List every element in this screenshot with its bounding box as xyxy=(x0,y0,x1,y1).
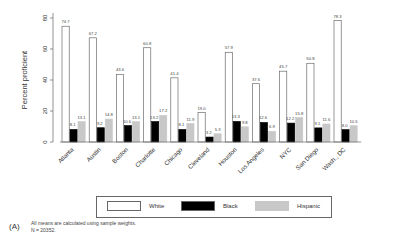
bar-group xyxy=(144,48,167,142)
y-tick-label: 0 xyxy=(42,140,48,144)
bar-black xyxy=(206,137,213,142)
legend-swatch-hispanic xyxy=(255,201,289,211)
bar-black xyxy=(97,128,104,142)
y-axis: 020406080 xyxy=(42,13,53,144)
value-label: 9.8 xyxy=(242,120,248,125)
value-label: 57.9 xyxy=(225,45,234,50)
bar-black xyxy=(260,122,267,142)
y-tick-label: 80 xyxy=(42,14,48,21)
bar-group xyxy=(171,78,194,142)
bar-white xyxy=(307,63,314,142)
value-label: 45.7 xyxy=(279,64,288,69)
y-tick-label: 60 xyxy=(42,45,48,52)
legend-item-black: Black xyxy=(181,201,238,211)
value-label: 78.3 xyxy=(334,14,343,19)
legend-label-black: Black xyxy=(223,203,238,209)
value-label: 41.4 xyxy=(170,71,179,76)
x-tick-label: NYC xyxy=(278,145,293,160)
bar-white xyxy=(89,38,96,142)
x-tick-label: Los Angeles xyxy=(236,146,265,175)
x-tick-label: Cleveland xyxy=(186,145,211,170)
bar-white xyxy=(225,52,232,142)
bar-group xyxy=(307,63,330,142)
x-tick-label: Houston xyxy=(217,145,239,167)
value-label: 8.1 xyxy=(70,122,76,127)
y-axis-title: Percent proficient xyxy=(20,50,29,109)
bar-black xyxy=(179,129,186,142)
bar-black xyxy=(288,123,295,142)
bar-hispanic xyxy=(132,122,139,142)
value-label: 5.3 xyxy=(215,127,221,132)
legend-item-hispanic: Hispanic xyxy=(255,201,320,211)
x-axis-labels: AtlantaAustinBostonCharlotteChicagoCleve… xyxy=(56,145,347,174)
x-tick-label: Chicago xyxy=(163,145,184,166)
bar-group xyxy=(89,38,112,142)
bar-white xyxy=(334,21,341,142)
value-label: 11.9 xyxy=(186,117,195,122)
y-tick-label: 40 xyxy=(42,76,48,83)
value-label: 6.9 xyxy=(269,124,275,129)
x-tick-label: San Diego xyxy=(294,145,320,171)
x-tick-label: Charlotte xyxy=(134,145,157,168)
value-label: 11.6 xyxy=(322,117,331,122)
value-label: 60.8 xyxy=(143,41,152,46)
value-label: 12.6 xyxy=(259,115,268,120)
bar-black xyxy=(152,122,159,142)
bar-white xyxy=(252,84,259,142)
legend: White Black Hispanic xyxy=(96,196,332,218)
x-tick-label: Atlanta xyxy=(56,145,75,164)
value-label: 17.2 xyxy=(159,108,168,113)
footnote: All means are calculated using sample we… xyxy=(31,220,136,233)
value-label: 67.2 xyxy=(89,31,98,36)
bar-hispanic xyxy=(214,134,221,142)
value-label: 3.2 xyxy=(206,130,212,135)
bar-black xyxy=(342,130,349,142)
bar-hispanic xyxy=(350,126,357,142)
value-label: 8.1 xyxy=(178,122,184,127)
bar-black xyxy=(315,128,322,142)
legend-label-white: White xyxy=(149,203,164,209)
value-label: 13.3 xyxy=(232,114,241,119)
value-label: 12.2 xyxy=(286,116,295,121)
bar-group xyxy=(225,52,248,142)
bar-white xyxy=(116,74,123,142)
value-label: 13.1 xyxy=(78,115,87,120)
panel-label: (A) xyxy=(9,222,20,231)
value-label: 15.8 xyxy=(295,111,304,116)
bar-black xyxy=(233,121,240,142)
value-label: 9.1 xyxy=(314,121,320,126)
bar-hispanic xyxy=(241,127,248,142)
bar-hispanic xyxy=(78,122,85,142)
value-label: 10.5 xyxy=(350,119,359,124)
bar-group xyxy=(252,84,275,142)
bar-hispanic xyxy=(105,119,112,142)
footnote-line-2: N = 20352. xyxy=(31,227,136,234)
bar-black xyxy=(124,126,131,142)
x-tick-label: Boston xyxy=(111,145,130,164)
legend-swatch-black xyxy=(181,201,215,211)
legend-label-hispanic: Hispanic xyxy=(297,203,320,209)
value-label: 14.8 xyxy=(105,112,114,117)
bar-white xyxy=(144,48,151,142)
bar-groups xyxy=(62,21,357,142)
value-label: 37.6 xyxy=(252,77,261,82)
bar-hispanic xyxy=(187,124,194,142)
bar-black xyxy=(70,129,77,142)
bar-hispanic xyxy=(268,131,275,142)
bar-hispanic xyxy=(323,124,330,142)
x-tick-label: Wash., DC xyxy=(321,145,347,171)
bar-group xyxy=(280,71,303,142)
value-label: 13.2 xyxy=(150,115,159,120)
legend-item-white: White xyxy=(107,201,164,211)
bar-white xyxy=(280,71,287,142)
bar-group xyxy=(116,74,139,142)
value-label: 50.8 xyxy=(306,56,315,61)
value-label: 74.7 xyxy=(62,19,71,24)
value-label: 8.0 xyxy=(342,123,348,128)
bar-white xyxy=(62,26,69,142)
x-tick-label: Austin xyxy=(85,145,103,163)
value-label: 10.6 xyxy=(123,119,132,124)
bar-hispanic xyxy=(160,115,167,142)
y-tick-label: 20 xyxy=(42,107,48,114)
value-label: 43.6 xyxy=(116,67,125,72)
